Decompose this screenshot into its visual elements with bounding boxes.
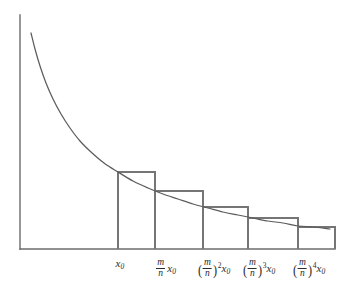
paren-close: ): [258, 263, 262, 278]
x-tick-label-mn-squared-x0: (mn)2x0: [198, 258, 231, 279]
decreasing-curve: [31, 33, 330, 229]
riemann-rectangle: [203, 207, 248, 249]
figure-canvas: [0, 0, 344, 295]
riemann-rectangles-group: [118, 172, 335, 249]
paren-open: (: [293, 263, 297, 278]
paren-open: (: [243, 263, 247, 278]
riemann-rectangle: [248, 218, 298, 249]
paren-close: ): [308, 263, 312, 278]
riemann-rectangle: [118, 172, 155, 249]
x-subscript: 0: [322, 267, 326, 276]
fraction-m-over-n: mn: [248, 258, 258, 279]
fraction-denominator: n: [248, 269, 257, 279]
x-tick-label-x0: x0: [116, 258, 125, 271]
x-subscript: 0: [272, 267, 276, 276]
x-subscript: 0: [121, 262, 125, 271]
fraction-denominator: n: [203, 269, 212, 279]
x-tick-label-mn-cubed-x0: (mn)3x0: [243, 258, 276, 279]
fraction-m-over-n: mn: [156, 258, 166, 279]
x-subscript: 0: [227, 267, 231, 276]
paren-open: (: [198, 263, 202, 278]
x-subscript: 0: [172, 267, 176, 276]
riemann-rectangle: [298, 227, 335, 249]
paren-close: ): [213, 263, 217, 278]
fraction-denominator: n: [156, 269, 165, 279]
fraction-m-over-n: mn: [298, 258, 308, 279]
figure-container: x0 mnx0 (mn)2x0 (mn)3x0 (mn)4x0: [0, 0, 344, 295]
fraction-denominator: n: [298, 269, 307, 279]
x-tick-label-mn-x0: mnx0: [156, 258, 176, 279]
fraction-m-over-n: mn: [203, 258, 213, 279]
x-tick-label-mn-fourth-x0: (mn)4x0: [293, 258, 326, 279]
